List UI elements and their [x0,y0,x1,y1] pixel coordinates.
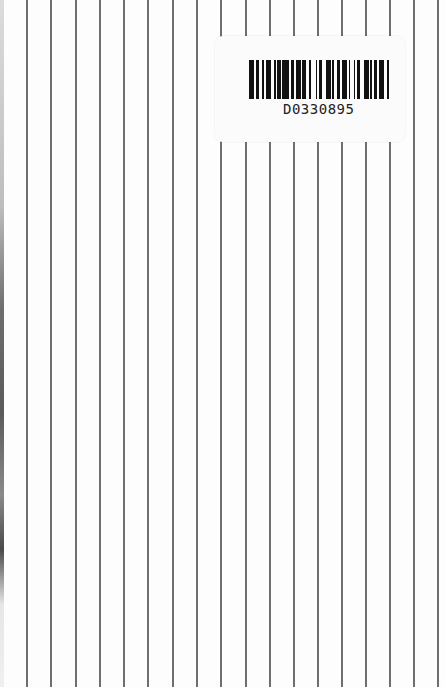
vertical-rule [50,0,52,687]
scanned-page: D0330895 [0,0,445,687]
vertical-rule [75,0,77,687]
page-spine-edge [0,0,4,687]
vertical-rule [147,0,149,687]
vertical-rule [172,0,174,687]
vertical-rule [413,0,415,687]
barcode-icon [249,60,391,99]
vertical-rule [26,0,28,687]
vertical-rule [437,0,439,687]
vertical-rule [99,0,101,687]
vertical-rule [123,0,125,687]
barcode-number: D0330895 [283,101,354,117]
barcode-label: D0330895 [215,36,405,142]
vertical-rule [196,0,198,687]
